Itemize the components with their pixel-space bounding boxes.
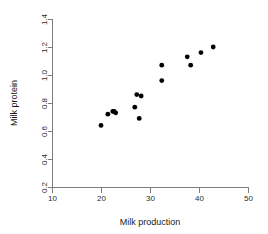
y-axis-title: Milk protein: [9, 80, 19, 126]
data-point[interactable]: [113, 110, 118, 115]
y-tick-label-1: 0.4: [40, 153, 49, 165]
plot-canvas: 0.20.40.60.81.01.21.41020304050Milk prod…: [0, 0, 268, 234]
data-point[interactable]: [185, 54, 190, 59]
data-point[interactable]: [159, 78, 164, 83]
data-point[interactable]: [211, 45, 216, 50]
y-tick-label-0: 0.2: [40, 181, 49, 193]
y-tick-label-5: 1.2: [40, 41, 49, 53]
y-tick-label-3: 0.8: [40, 97, 49, 109]
data-point[interactable]: [137, 116, 142, 121]
data-point[interactable]: [159, 63, 164, 68]
y-tick-label-6: 1.4: [40, 13, 49, 25]
data-point[interactable]: [134, 92, 139, 97]
data-point[interactable]: [99, 123, 104, 128]
x-tick-label-3: 40: [195, 194, 204, 203]
data-point-group: [99, 45, 216, 128]
data-point[interactable]: [199, 50, 204, 55]
data-point[interactable]: [188, 63, 193, 68]
x-axis-title: Milk production: [120, 217, 181, 227]
x-tick-label-2: 30: [146, 194, 155, 203]
data-point[interactable]: [139, 94, 144, 99]
data-point[interactable]: [132, 105, 137, 110]
y-tick-label-2: 0.6: [40, 125, 49, 137]
x-tick-label-4: 50: [244, 194, 253, 203]
data-point[interactable]: [105, 112, 110, 117]
scatter-chart: 0.20.40.60.81.01.21.41020304050Milk prod…: [0, 0, 268, 234]
x-tick-label-1: 20: [97, 194, 106, 203]
x-tick-label-0: 10: [48, 194, 57, 203]
y-tick-label-4: 1.0: [40, 69, 49, 81]
